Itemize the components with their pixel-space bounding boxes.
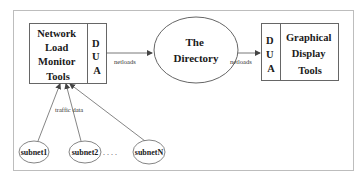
diagram-canvas: Network Load Monitor Tools D U A netload… [0, 0, 362, 177]
left-dua-u: U [92, 51, 100, 62]
directory-line-1: The [185, 36, 203, 48]
graphical-display-box: D U A Graphical Display Tools [262, 24, 339, 81]
subnet-n: subnetN [133, 140, 165, 164]
right-box-line-1: Graphical [286, 32, 332, 43]
subnet-2: subnet2 [69, 141, 101, 163]
right-dua-a: A [267, 63, 275, 74]
subnet-1-label: subnet1 [21, 148, 48, 157]
left-box-line-3: Monitor [38, 56, 76, 67]
netloads-label-right: netloads [230, 58, 252, 65]
netloads-label-left: netloads [114, 58, 136, 65]
left-box-line-2: Load [45, 42, 69, 53]
left-box-line-1: Network [37, 28, 76, 39]
svg-text:D U A: D U A [92, 38, 102, 76]
subnet-1: subnet1 [19, 141, 49, 163]
right-dua-u: U [266, 49, 274, 60]
svg-text:D U A: D U A [266, 35, 276, 74]
left-dua-a: A [93, 65, 101, 76]
subnet-2-label: subnet2 [72, 148, 99, 157]
right-box-line-3: Tools [298, 65, 322, 76]
subnet-ellipsis: . . . . [103, 148, 117, 157]
right-box-line-2: Display [292, 48, 327, 59]
directory-ellipse: The Directory [154, 17, 238, 83]
directory-line-2: Directory [174, 52, 219, 64]
left-box-line-4: Tools [46, 71, 70, 82]
left-dua-d: D [92, 38, 100, 49]
network-load-monitor-box: Network Load Monitor Tools D U A [30, 24, 107, 84]
subnet-n-label: subnetN [135, 148, 164, 157]
right-dua-d: D [266, 35, 274, 46]
traffic-data-label: traffic data [55, 106, 83, 113]
